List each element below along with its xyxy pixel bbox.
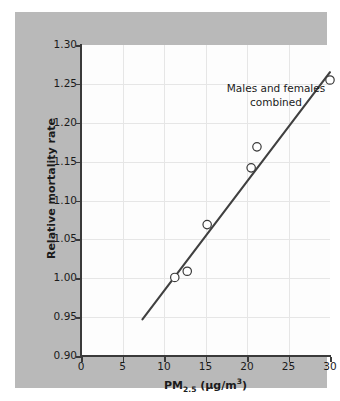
xlabel-unit: µg/m [205,379,236,392]
x-tick-mark [206,357,208,362]
y-tick-label: 0.95 [35,310,77,322]
y-tick-mark [76,123,81,125]
xlabel-prefix: PM [164,379,183,392]
x-tick-mark [330,357,332,362]
annotation-line-1: Males and females [201,81,340,95]
y-axis-title: Relative mortality rate [45,79,58,299]
scatter-point [247,164,255,172]
y-tick-mark [76,84,81,86]
scatter-point [171,273,179,281]
regression-line [142,72,330,319]
plot-area: Males and females combined [81,45,330,356]
y-tick-mark [76,278,81,280]
scatter-point [253,143,261,151]
y-tick-mark [76,239,81,241]
y-tick-mark [76,317,81,319]
x-axis-title: PM2.5 (µg/m3) [81,377,330,394]
xlabel-unit-open: ( [196,379,205,392]
figure-container: Males and females combined 0.900.951.001… [0,0,340,401]
x-tick-mark [123,357,125,362]
y-tick-label: 1.30 [35,38,77,50]
scatter-point [203,220,211,228]
y-tick-mark [76,162,81,164]
xlabel-subscript: 2.5 [183,385,196,394]
x-tick-mark [289,357,291,362]
y-tick-mark [76,201,81,203]
x-tick-mark [247,357,249,362]
chart-panel: Males and females combined 0.900.951.001… [15,12,327,388]
y-tick-mark [76,45,81,47]
chart-annotation: Males and females combined [201,81,340,109]
scatter-point [183,267,191,275]
annotation-line-2: combined [201,95,340,109]
x-tick-label: 30 [315,360,340,372]
x-tick-mark [164,357,166,362]
x-tick-mark [81,357,83,362]
xlabel-unit-close: ) [242,379,247,392]
